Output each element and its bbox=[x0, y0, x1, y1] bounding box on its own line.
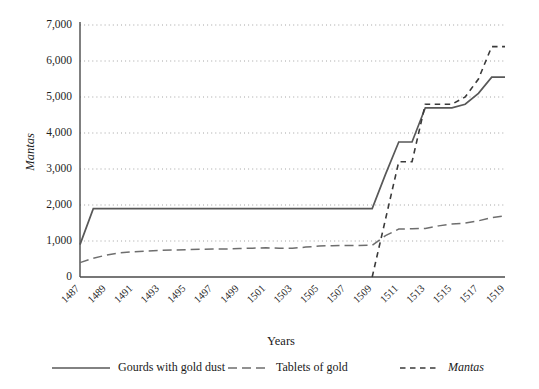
y-axis-tick-labels: 01,0002,0003,0004,0005,0006,0007,000 bbox=[46, 18, 72, 282]
y-axis-tick-label: 0 bbox=[66, 270, 72, 282]
legend-label-1: Tablets of gold bbox=[276, 360, 348, 374]
x-axis-tick-label: 1509 bbox=[351, 283, 374, 306]
legend-label-0: Gourds with gold dust bbox=[118, 360, 226, 374]
x-axis-tick-label: 1499 bbox=[218, 283, 241, 306]
y-axis-tick-label: 3,000 bbox=[46, 162, 72, 175]
x-axis-tick-label: 1489 bbox=[85, 283, 108, 306]
series-line-2 bbox=[372, 47, 505, 277]
x-axis-tick-label: 1505 bbox=[298, 283, 321, 306]
x-axis-tick-label: 1517 bbox=[457, 283, 480, 306]
series-line-1 bbox=[80, 216, 505, 263]
x-axis-tick-label: 1515 bbox=[431, 283, 454, 306]
y-axis-tick-label: 4,000 bbox=[46, 126, 72, 139]
y-axis-tick-label: 1,000 bbox=[46, 234, 72, 247]
x-axis-tick-label: 1511 bbox=[378, 283, 400, 305]
legend-label-2: Mantas bbox=[447, 360, 484, 374]
line-chart: 01,0002,0003,0004,0005,0006,0007,000 148… bbox=[0, 0, 539, 389]
x-axis-tick-label: 1497 bbox=[192, 283, 215, 306]
x-axis-tick-labels: 1487148914911493149514971499150115031505… bbox=[59, 283, 507, 306]
x-axis-tick-label: 1495 bbox=[165, 283, 188, 306]
x-axis-tick-label: 1507 bbox=[324, 283, 347, 306]
x-axis-tick-label: 1501 bbox=[245, 283, 268, 306]
data-series-group bbox=[80, 47, 505, 277]
y-axis-title: Mantas bbox=[23, 133, 37, 172]
axes bbox=[80, 22, 505, 277]
y-axis-tick-label: 5,000 bbox=[46, 90, 72, 103]
x-axis-tick-label: 1491 bbox=[112, 283, 135, 306]
chart-container: 01,0002,0003,0004,0005,0006,0007,000 148… bbox=[0, 0, 539, 389]
x-axis-tick-label: 1487 bbox=[59, 283, 82, 306]
x-axis-tick-label: 1503 bbox=[271, 283, 294, 306]
x-axis-tick-label: 1493 bbox=[138, 283, 161, 306]
x-axis-tick-label: 1519 bbox=[484, 283, 507, 306]
y-axis-tick-label: 2,000 bbox=[46, 198, 72, 211]
x-axis-tick-label: 1513 bbox=[404, 283, 427, 306]
x-axis-title: Years bbox=[267, 334, 295, 348]
y-axis-tick-label: 6,000 bbox=[46, 54, 72, 67]
chart-legend: Gourds with gold dustTablets of goldMant… bbox=[52, 360, 484, 374]
series-line-0 bbox=[80, 77, 505, 244]
y-axis-tick-label: 7,000 bbox=[46, 18, 72, 31]
